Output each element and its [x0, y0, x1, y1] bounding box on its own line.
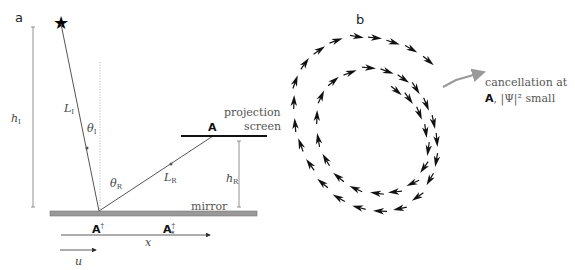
svg-text:θI: θI: [87, 122, 97, 136]
incident-ray: [61, 24, 99, 211]
svg-text:LR: LR: [163, 171, 177, 185]
incident-ray-arrow-icon: [86, 147, 89, 150]
x-axis-label: x: [145, 236, 152, 249]
cancellation-pointer-arrow: [443, 72, 484, 87]
outer-phasor-loop: [290, 32, 441, 214]
cancellation-annotation-line2: , |Ψ|² small: [494, 92, 556, 106]
mirror-label: mirror: [191, 200, 228, 213]
l-incident-label: L: [63, 102, 71, 115]
svg-text:A†*: A†*: [163, 222, 176, 238]
svg-text:θR: θR: [110, 177, 123, 191]
h-reflected-label: h: [226, 172, 233, 185]
svg-text:A, |Ψ|² small: A, |Ψ|² small: [485, 92, 556, 106]
svg-text:hI: hI: [11, 112, 21, 126]
projection-screen-label-line1: projection: [224, 106, 281, 119]
inner-phasor-loop: [313, 64, 432, 197]
panel-a-label: a: [15, 10, 23, 25]
u-axis-label: u: [75, 255, 82, 268]
cancellation-annotation-line1: cancellation at: [485, 76, 568, 89]
height-reflected-measure: hR: [226, 141, 241, 207]
reflected-ray-arrow-icon: [170, 163, 173, 166]
svg-text:hR: hR: [226, 172, 239, 186]
h-incident-label: h: [11, 112, 18, 125]
svg-text:A†: A†: [92, 222, 105, 236]
source-star-icon: ★: [53, 12, 69, 33]
svg-text:LI: LI: [63, 102, 74, 116]
screen-point-a-label: A: [208, 121, 217, 134]
panel-a: a hI ★ LI θI θR LR: [11, 10, 281, 268]
height-incident-measure: hI: [11, 27, 35, 207]
panel-b-label: b: [356, 12, 364, 27]
projection-screen-label-line2: screen: [244, 120, 281, 133]
l-reflected-label: L: [163, 171, 171, 184]
figure-canvas: a hI ★ LI θI θR LR: [0, 0, 575, 270]
panel-b: b: [290, 12, 568, 215]
